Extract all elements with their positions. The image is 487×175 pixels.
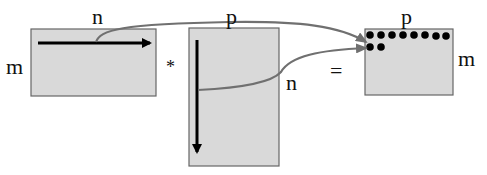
matrix-a-rows-label: m — [6, 56, 23, 78]
matrix-c — [365, 29, 453, 95]
matrix-b-rows-label: n — [286, 72, 297, 94]
matrix-multiplication-diagram: n m * p n = p m — [0, 0, 487, 175]
matrix-b-cols-label: p — [226, 6, 237, 28]
equals-operator: = — [330, 60, 342, 82]
multiply-operator: * — [166, 58, 175, 76]
matrix-b — [189, 28, 279, 166]
matrix-a-cols-label: n — [92, 6, 103, 28]
matrix-c-cols-label: p — [401, 6, 412, 28]
matrix-c-rows-label: m — [458, 48, 475, 70]
diagram-graphics — [0, 0, 487, 175]
matrix-a — [31, 29, 156, 96]
